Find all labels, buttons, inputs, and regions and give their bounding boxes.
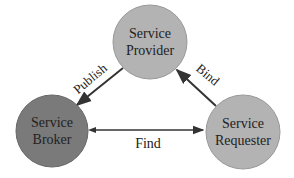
find-arrow xyxy=(88,127,203,133)
bind-label: Bind xyxy=(193,61,222,89)
provider-label-line2: Provider xyxy=(126,43,175,58)
publish-label: Publish xyxy=(70,60,110,97)
requester-label-line2: Requester xyxy=(215,133,271,148)
soa-diagram: Service Provider Service Broker Service … xyxy=(0,0,294,178)
find-label: Find xyxy=(135,136,161,151)
service-broker-node xyxy=(16,95,88,167)
service-provider-node xyxy=(113,5,187,79)
requester-label-line1: Service xyxy=(222,116,264,131)
broker-label-line1: Service xyxy=(31,115,73,130)
service-requester-node xyxy=(206,95,280,169)
provider-label-line1: Service xyxy=(129,26,171,41)
broker-label-line2: Broker xyxy=(33,132,72,147)
